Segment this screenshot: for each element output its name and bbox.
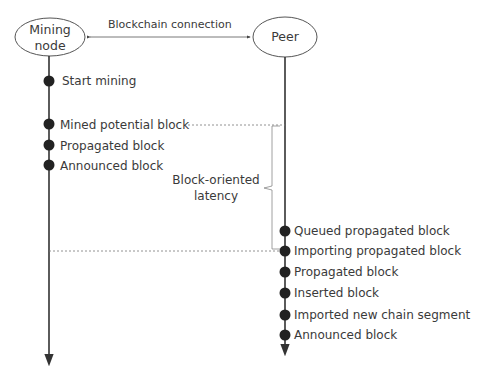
peer-event-label: Inserted block [294,286,379,300]
mining-node-label: Mining node [15,22,85,54]
mining-node-label-line1: Mining [15,22,85,38]
peer-event-dot [280,330,291,341]
peer-event-dot [280,267,291,278]
peer-event-dot [280,288,291,299]
peer-event-label: Queued propagated block [294,224,450,238]
mining-event-label: Announced block [60,159,163,173]
mining-event-label: Start mining [62,74,136,88]
peer-event-dot [280,226,291,237]
peer-event-label: Imported new chain segment [294,308,470,322]
mining-event-dot [44,160,55,171]
peer-event-dot [280,310,291,321]
peer-label: Peer [255,29,315,45]
peer-event-label: Propagated block [294,265,398,279]
peer-event-label: Importing propagated block [294,244,461,258]
mining-event-label: Propagated block [60,139,164,153]
mining-event-dot [44,119,55,130]
connection-label: Blockchain connection [108,18,232,32]
mining-event-label: Mined potential block [60,118,189,132]
peer-event-dot [280,246,291,257]
latency-label-line1: Block-oriented [170,173,262,187]
peer-event-label: Announced block [294,328,397,342]
mining-event-dot [44,140,55,151]
latency-label-line2: latency [170,189,262,203]
latency-label: Block-oriented latency [170,173,262,203]
mining-node-label-line2: node [15,38,85,54]
latency-bracket [264,126,280,249]
mining-event-dot [44,76,55,87]
